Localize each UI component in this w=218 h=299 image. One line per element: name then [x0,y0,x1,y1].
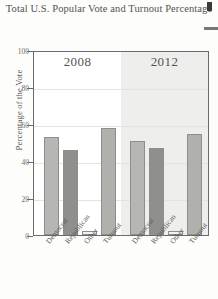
bar-2008-democrat [44,137,59,235]
plot-area: 2008 2012 [33,51,209,236]
scan-artifact-edge [204,27,218,30]
bar-2012-turnout [187,134,202,235]
y-tick-label-60: 60 [3,121,29,130]
chart-title: Total U.S. Popular Vote and Turnout Perc… [0,3,218,16]
y-tick-label-0: 0 [3,232,29,241]
y-tick-label-20: 20 [3,195,29,204]
y-tick-label-80: 80 [3,84,29,93]
bar-2012-democrat [130,141,145,235]
chart-figure: Total U.S. Popular Vote and Turnout Perc… [0,0,218,299]
bar-2008-turnout [101,128,116,235]
y-tick-label-100: 100 [3,47,29,56]
bars-layer [34,52,208,235]
scan-artifact-corner [207,2,212,11]
y-tick-label-40: 40 [3,158,29,167]
